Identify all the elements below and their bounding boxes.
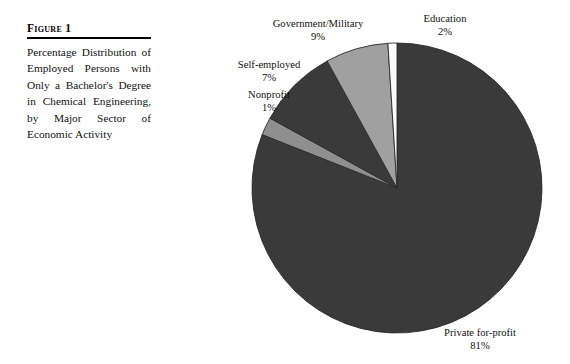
pie-chart-svg bbox=[0, 0, 570, 364]
pie-label-education-name: Education bbox=[400, 12, 490, 25]
pie-label-education-pct: 2% bbox=[400, 25, 490, 38]
pie-label-self-employed-pct: 7% bbox=[203, 71, 335, 84]
pie-label-government-military: Government/Military 9% bbox=[242, 17, 394, 43]
figure-page: Figure 1 Percentage Distribution of Empl… bbox=[0, 0, 570, 364]
pie-label-education: Education 2% bbox=[400, 12, 490, 38]
pie-label-self-employed-name: Self-employed bbox=[203, 58, 335, 71]
pie-label-nonprofit: Nonprofit 1% bbox=[203, 88, 335, 114]
pie-label-nonprofit-pct: 1% bbox=[203, 101, 335, 114]
pie-chart: Government/Military 9% Education 2% Self… bbox=[0, 0, 570, 364]
pie-slices bbox=[252, 43, 542, 333]
pie-label-self-employed: Self-employed 7% bbox=[203, 58, 335, 84]
pie-label-private-for-profit: Private for-profit 81% bbox=[410, 326, 550, 352]
pie-label-private-for-profit-name: Private for-profit bbox=[410, 326, 550, 339]
pie-label-government-military-name: Government/Military bbox=[242, 17, 394, 30]
pie-label-nonprofit-name: Nonprofit bbox=[203, 88, 335, 101]
pie-label-government-military-pct: 9% bbox=[242, 30, 394, 43]
pie-label-private-for-profit-pct: 81% bbox=[410, 339, 550, 352]
